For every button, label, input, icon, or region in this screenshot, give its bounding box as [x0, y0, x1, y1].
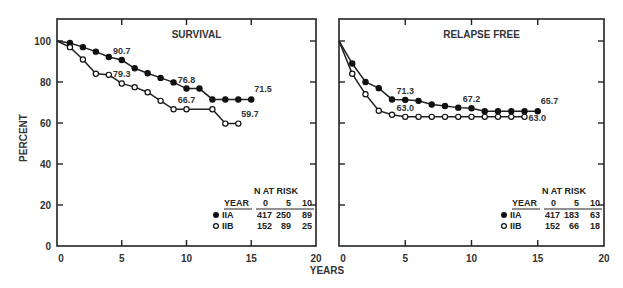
data-point [132, 66, 137, 71]
data-point [145, 90, 150, 95]
data-point [210, 107, 215, 112]
data-point [403, 97, 408, 102]
legend-header: 10 [302, 198, 312, 208]
legend-value: 63 [590, 210, 600, 220]
data-point [119, 57, 124, 62]
figure: SURVIVAL0204060801000510152090.776.871.5… [0, 0, 623, 288]
legend-header: YEAR [224, 198, 250, 208]
data-point [429, 114, 434, 119]
legend-value: 183 [564, 210, 579, 220]
n-at-risk-table: N AT RISKYEAR0510IIA41725089IIB1528925 [214, 186, 314, 231]
legend-value: 250 [276, 210, 291, 220]
legend-header: 5 [574, 198, 579, 208]
data-point [223, 121, 228, 126]
legend-header: YEAR [512, 198, 538, 208]
data-point [376, 108, 381, 113]
chart-title: SURVIVAL [172, 29, 222, 40]
data-point [80, 57, 85, 62]
data-point [197, 86, 202, 91]
data-point [482, 109, 487, 114]
data-point [93, 71, 98, 76]
data-label: 71.5 [254, 84, 272, 94]
data-point [403, 114, 408, 119]
data-point [106, 54, 111, 59]
x-axis-label: YEARS [310, 265, 345, 276]
legend-marker [502, 213, 507, 218]
x-tick-label: 10 [181, 253, 193, 264]
data-point [67, 45, 72, 50]
data-point [158, 75, 163, 80]
data-point [522, 114, 527, 119]
x-tick-label: 20 [310, 253, 322, 264]
data-point [93, 49, 98, 54]
data-label: 59.7 [241, 109, 259, 119]
data-point [389, 97, 394, 102]
data-point [416, 98, 421, 103]
legend-header: 0 [263, 198, 268, 208]
y-tick-label: 60 [40, 118, 52, 129]
data-point [350, 71, 355, 76]
data-point [376, 86, 381, 91]
x-tick-label: 0 [58, 253, 64, 264]
legend-value: 417 [545, 210, 560, 220]
legend-value: 89 [302, 210, 312, 220]
data-point [106, 72, 111, 77]
data-point [469, 106, 474, 111]
relapse-free-panel: RELAPSE FREE0510152071.367.265.763.063.0… [339, 19, 610, 264]
legend-marker [502, 224, 507, 229]
legend-value: 89 [281, 221, 291, 231]
data-point [350, 61, 355, 66]
y-tick-label: 80 [40, 77, 52, 88]
data-label: 63.0 [529, 113, 547, 123]
data-label: 71.3 [396, 86, 414, 96]
data-label: 66.7 [178, 95, 196, 105]
y-tick-label: 0 [45, 241, 51, 252]
data-label: 76.8 [178, 75, 196, 85]
legend-header: 5 [286, 198, 291, 208]
data-label: 65.7 [541, 96, 559, 106]
y-axis-label: PERCENT [18, 114, 29, 162]
x-tick-label: 5 [402, 253, 408, 264]
x-tick-label: 5 [119, 253, 125, 264]
legend-row-label: IIB [510, 221, 522, 231]
data-label: 63.0 [396, 103, 414, 113]
data-point [184, 107, 189, 112]
data-point [210, 97, 215, 102]
data-point [363, 92, 368, 97]
data-point [119, 81, 124, 86]
data-label: 90.7 [113, 46, 131, 56]
data-point [509, 114, 514, 119]
survival-panel: SURVIVAL0204060801000510152090.776.871.5… [34, 19, 322, 264]
legend-value: 18 [590, 221, 600, 231]
y-tick-label: 20 [40, 200, 52, 211]
chart-title: RELAPSE FREE [443, 29, 520, 40]
data-point [442, 103, 447, 108]
data-point [442, 114, 447, 119]
x-tick-label: 10 [466, 253, 478, 264]
legend-header: 10 [590, 198, 600, 208]
data-point [171, 80, 176, 85]
data-point [132, 85, 137, 90]
x-tick-label: 20 [598, 253, 610, 264]
series-line-iia [57, 41, 251, 99]
data-point [236, 121, 241, 126]
data-point [171, 107, 176, 112]
data-point [495, 114, 500, 119]
y-tick-label: 100 [34, 36, 51, 47]
data-point [249, 97, 254, 102]
n-at-risk-table: N AT RISKYEAR0510IIA41718363IIB1526618 [502, 186, 602, 231]
data-point [469, 114, 474, 119]
x-tick-label: 15 [532, 253, 544, 264]
data-point [158, 98, 163, 103]
legend-marker [214, 224, 219, 229]
data-point [236, 97, 241, 102]
data-point [495, 109, 500, 114]
legend-row-label: IIA [510, 210, 522, 220]
data-point [509, 109, 514, 114]
legend-value: 152 [257, 221, 272, 231]
data-point [456, 114, 461, 119]
legend-value: 152 [545, 221, 560, 231]
x-tick-label: 0 [340, 253, 346, 264]
legend-title: N AT RISK [254, 186, 298, 196]
data-point [482, 114, 487, 119]
